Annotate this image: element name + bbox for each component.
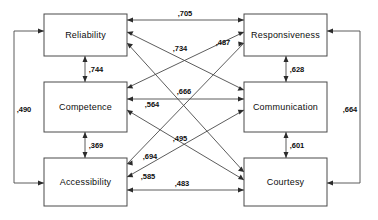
arrow-head [127,84,133,89]
arrow-head [127,188,133,193]
node-competence[interactable]: Competence [44,82,127,132]
arrow-head [284,76,289,82]
arrow-head [83,56,88,62]
node-layer: Reliability Competence Accessibility Res… [44,14,327,206]
arrow-head [83,152,88,158]
edge-label-competence-communication: ,564 [145,100,160,109]
arrow-head [327,29,333,34]
edge-label-communication-courtesy: ,601 [290,141,305,150]
arrow-head [238,97,244,102]
edge-label-reliability-communication: ,734 [173,44,188,53]
node-label-courtesy: Courtesy [267,177,305,187]
node-label-reliability: Reliability [65,30,106,40]
path-diagram: ,705 ,564 ,483 ,744 ,369 ,628 ,601 ,490 … [0,0,378,220]
edge-label-responsiveness-communication: ,628 [290,65,305,74]
edge-label-reliability-accessibility: ,490 [17,105,32,114]
node-reliability[interactable]: Reliability [44,14,127,56]
node-label-responsiveness: Responsiveness [251,30,320,40]
edge-label-accessibility-responsiveness: ,694 [143,152,158,161]
arrow-head [83,132,88,138]
node-responsiveness[interactable]: Responsiveness [244,14,327,56]
edge-label-competence-accessibility: ,369 [89,141,104,150]
edge-label-accessibility-courtesy: ,483 [175,179,190,188]
arrow-head [238,110,244,115]
arrow-head [284,56,289,62]
arrow-head [238,18,244,23]
edge-label-accessibility-communication: ,585 [141,172,156,181]
edge-label-reliability-courtesy: ,666 [177,87,192,96]
arrow-head [127,18,133,23]
node-label-competence: Competence [59,102,112,112]
arrow-head [238,166,244,172]
arrow-head [127,173,133,178]
node-label-accessibility: Accessibility [60,177,112,187]
arrow-head [127,97,133,102]
arrow-head [284,152,289,158]
arrow-head [284,132,289,138]
node-communication[interactable]: Communication [244,82,327,132]
edge-label-competence-courtesy: ,495 [173,134,188,143]
node-accessibility[interactable]: Accessibility [44,158,127,206]
diagram-canvas: ,705 ,564 ,483 ,744 ,369 ,628 ,601 ,490 … [0,0,378,220]
arrow-head [83,76,88,82]
edge-label-competence-responsiveness: ,487 [216,38,231,47]
edge-label-reliability-responsiveness: ,705 [178,9,193,18]
arrow-head [238,188,244,193]
node-courtesy[interactable]: Courtesy [244,158,327,206]
arrow-head [327,181,333,186]
node-label-communication: Communication [253,102,318,112]
arrow-head [38,29,44,34]
arrow-head [238,31,244,36]
edge-label-reliability-competence: ,744 [89,65,104,74]
arrow-head [38,181,44,186]
arrow-head [127,43,133,49]
edge-label-responsiveness-courtesy: ,664 [343,105,358,114]
